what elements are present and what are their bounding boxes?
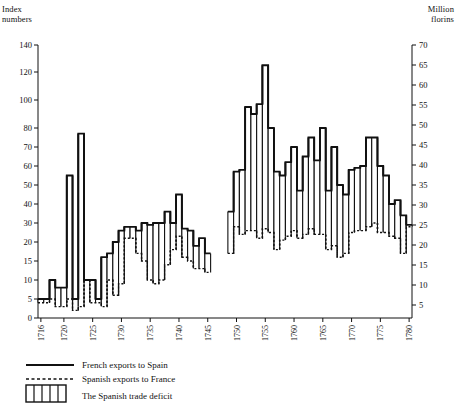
trade-deficit-column: [354, 168, 360, 231]
trade-deficit-column: [153, 223, 159, 284]
right-axis-tick-label: 20: [419, 240, 428, 250]
trade-deficit-column: [182, 229, 188, 258]
chart-plot-area: 05101520304050607080100120140 5101520253…: [0, 0, 456, 406]
trade-deficit-column: [251, 114, 257, 231]
x-axis-tick-label: 1735: [146, 325, 155, 341]
right-axis-tick-label: 60: [419, 80, 428, 90]
left-axis-tick-label: 120: [19, 67, 32, 77]
left-axis-tick-label: 20: [24, 237, 33, 247]
x-axis-tick-label: 1745: [204, 325, 213, 341]
left-axis-tick-label: 15: [24, 256, 33, 266]
trade-deficit-column: [389, 204, 395, 236]
left-axis-tick-label: 50: [24, 180, 33, 190]
left-axis: 05101520304050607080100120140: [19, 40, 38, 323]
left-axis-tick-label: 60: [24, 161, 33, 171]
x-axis-tick-label: 1755: [261, 325, 270, 341]
left-axis-tick-label: 10: [24, 275, 33, 285]
x-axis-tick-label: 1740: [175, 325, 184, 341]
trade-deficit-column: [343, 195, 349, 254]
trade-deficit-column: [205, 253, 211, 272]
right-axis-tick-label: 70: [419, 40, 428, 50]
trade-deficit-column: [55, 288, 61, 307]
trade-deficit-band: [38, 65, 412, 310]
x-axis-tick-label: 1720: [60, 325, 69, 341]
right-axis-tick-label: 30: [419, 200, 428, 210]
x-axis-tick-label: 1750: [233, 325, 242, 341]
right-axis: 510152025303540455055606570: [412, 40, 428, 318]
right-axis-tick-label: 10: [419, 280, 428, 290]
trade-deficit-column: [239, 170, 245, 235]
legend-label-spanish-exports: Spanish exports to France: [82, 374, 175, 384]
trade-deficit-column: [147, 225, 153, 280]
x-axis-tick-label: 1765: [319, 325, 328, 341]
x-axis-tick-label: 1760: [290, 325, 299, 341]
right-axis-tick-label: 40: [419, 160, 428, 170]
trade-deficit-column: [314, 160, 320, 234]
trade-deficit-column: [274, 172, 280, 250]
x-axis: 1716172017251730173517401745175017551760…: [37, 318, 414, 341]
left-axis-tick-label: 140: [19, 40, 32, 50]
trade-deficit-column: [337, 185, 343, 257]
trade-deficit-column: [73, 299, 79, 310]
trade-deficit-column: [159, 223, 165, 280]
left-axis-tick-label: 5: [28, 294, 32, 304]
right-axis-tick-label: 25: [419, 220, 428, 230]
x-axis-tick-label: 1730: [117, 325, 126, 341]
left-axis-tick-label: 70: [24, 142, 33, 152]
trade-deficit-column: [193, 246, 199, 269]
trade-deficit-column: [136, 231, 142, 254]
x-axis-tick-label: 1775: [376, 325, 385, 341]
right-axis-tick-label: 45: [419, 140, 428, 150]
trade-deficit-column: [228, 212, 234, 254]
legend-swatch-hatched-box: [26, 385, 66, 402]
left-axis-tick-label: 100: [19, 95, 32, 105]
right-axis-tick-label: 15: [419, 260, 428, 270]
left-axis-tick-label: 40: [24, 199, 33, 209]
left-axis-tick-label: 80: [24, 123, 33, 133]
x-axis-tick-label: 1770: [348, 325, 357, 341]
right-axis-tick-label: 5: [419, 300, 423, 310]
left-axis-tick-label: 0: [28, 313, 32, 323]
trade-deficit-column: [326, 191, 332, 250]
trade-deficit-column: [61, 288, 67, 307]
legend-label-french-exports: French exports to Spain: [82, 360, 168, 370]
right-axis-tick-label: 55: [419, 100, 428, 110]
trade-deficit-column: [280, 176, 286, 241]
x-axis-tick-label: 1725: [89, 325, 98, 341]
trade-deficit-column: [360, 166, 366, 231]
trade-deficit-column: [257, 104, 263, 238]
right-axis-tick-label: 50: [419, 120, 428, 130]
right-axis-tick-label: 65: [419, 60, 428, 70]
trade-deficit-column: [297, 191, 303, 239]
trade-deficit-column: [170, 223, 176, 250]
left-axis-tick-label: 30: [24, 218, 33, 228]
legend-label-trade-deficit: The Spanish trade deficit: [82, 391, 172, 401]
legend: [26, 365, 74, 402]
chart-root: Index numbers Million florins 0510152030…: [0, 0, 456, 406]
x-axis-tick-label: 1780: [405, 325, 414, 341]
x-axis-tick-label: 1716: [37, 325, 46, 341]
right-axis-tick-label: 35: [419, 180, 428, 190]
